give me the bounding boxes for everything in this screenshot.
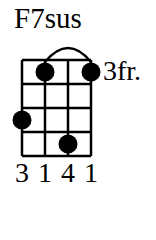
fretboard-grid bbox=[22, 60, 91, 156]
finger-number: 1 bbox=[35, 158, 55, 188]
finger-dot-string-4 bbox=[82, 63, 101, 82]
finger-number: 4 bbox=[58, 158, 78, 188]
finger-dot-string-3 bbox=[59, 135, 78, 154]
finger-dot-string-2 bbox=[36, 63, 55, 82]
finger-number: 3 bbox=[12, 158, 32, 188]
start-fret-label: 3fr. bbox=[103, 56, 141, 86]
finger-dot-string-1 bbox=[13, 111, 32, 130]
finger-number: 1 bbox=[81, 158, 101, 188]
fingering-row: 3 1 4 1 bbox=[0, 158, 156, 192]
